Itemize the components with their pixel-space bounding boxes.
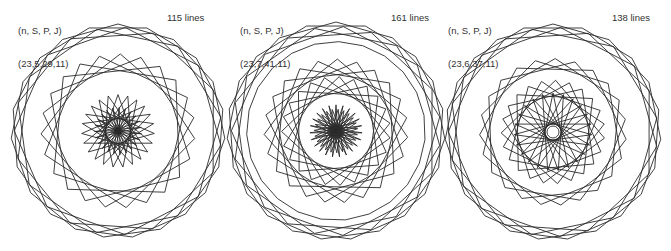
star-polygon-figures [0, 0, 671, 251]
star-figure-1 [11, 24, 225, 237]
star-figure-3 [445, 24, 661, 239]
star-figure-2 [227, 22, 445, 239]
